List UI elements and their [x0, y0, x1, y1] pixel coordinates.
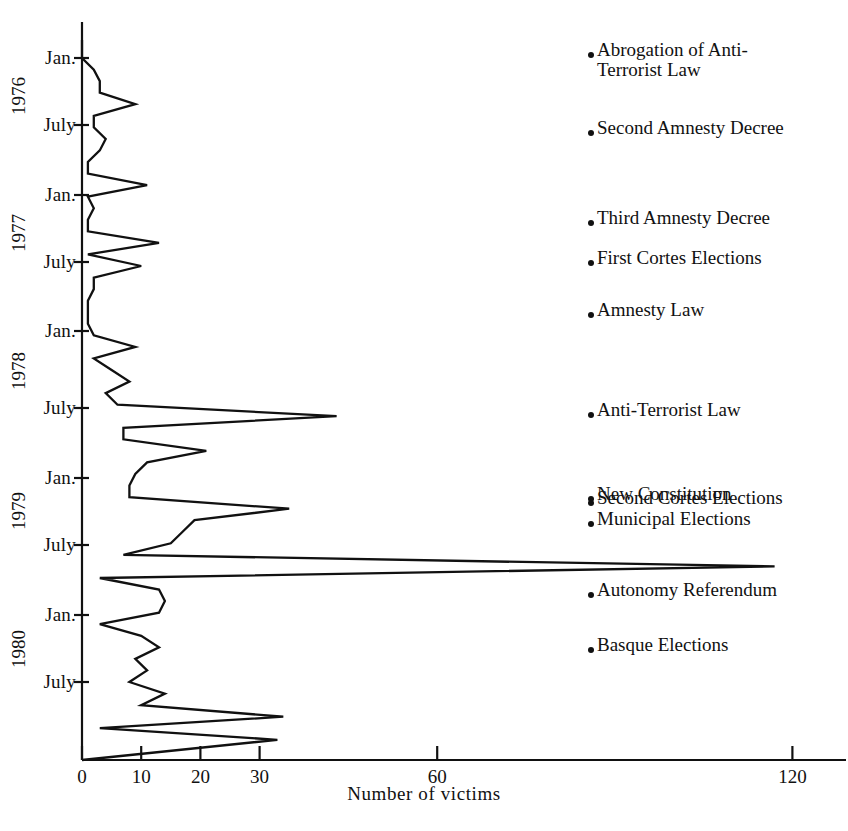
year-label: 1976 [0, 85, 28, 107]
event-annotation-second-cortes-elections: Second Cortes Elections [588, 488, 783, 508]
event-bullet-icon [588, 592, 594, 598]
y-tick-label: July [44, 671, 76, 693]
event-bullet-icon [588, 312, 594, 318]
event-label: Municipal Elections [597, 509, 751, 529]
event-annotation-municipal-elections: Municipal Elections [588, 509, 751, 529]
event-label: Basque Elections [597, 635, 728, 655]
event-label: First Cortes Elections [597, 248, 762, 268]
event-annotation-first-cortes-elections: First Cortes Elections [588, 248, 762, 268]
year-label: 1980 [0, 638, 28, 660]
year-label: 1978 [0, 360, 28, 382]
event-annotation-second-amnesty-decree: Second Amnesty Decree [588, 118, 784, 138]
event-bullet-icon [588, 52, 594, 58]
event-label: Amnesty Law [597, 300, 704, 320]
event-annotation-third-amnesty-decree: Third Amnesty Decree [588, 208, 770, 228]
event-bullet-icon [588, 220, 594, 226]
event-annotation-amnesty-law: Amnesty Law [588, 300, 704, 320]
y-tick-label: Jan. [45, 604, 76, 626]
y-tick-label: Jan. [45, 47, 76, 69]
event-annotation-basque-elections: Basque Elections [588, 635, 728, 655]
event-bullet-icon [588, 500, 594, 506]
event-bullet-icon [588, 412, 594, 418]
event-annotation-anti-terrorist-law: Anti-Terrorist Law [588, 400, 741, 420]
y-tick-label: July [44, 534, 76, 556]
event-label: Third Amnesty Decree [597, 208, 770, 228]
y-tick-label: July [44, 397, 76, 419]
y-axis-month-labels: Jan. July Jan. July Jan. July Jan. July … [0, 0, 76, 831]
y-tick-label: Jan. [45, 320, 76, 342]
victims-timeline-chart: Jan. July Jan. July Jan. July Jan. July … [0, 0, 848, 831]
y-tick-label: July [44, 251, 76, 273]
year-label: 1979 [0, 500, 28, 522]
event-bullet-icon [588, 260, 594, 266]
event-bullet-icon [588, 521, 594, 527]
event-label: Second Cortes Elections [597, 488, 783, 508]
event-label: Second Amnesty Decree [597, 118, 784, 138]
event-annotation-autonomy-referendum: Autonomy Referendum [588, 580, 777, 600]
event-bullet-icon [588, 647, 594, 653]
y-tick-label: Jan. [45, 467, 76, 489]
event-label: Autonomy Referendum [597, 580, 777, 600]
y-tick-label: July [44, 114, 76, 136]
event-annotation-abrogation-anti-terrorist-law: Abrogation of Anti- Terrorist Law [588, 40, 748, 80]
y-tick-label: Jan. [45, 184, 76, 206]
event-bullet-icon [588, 130, 594, 136]
event-label: Anti-Terrorist Law [597, 400, 741, 420]
event-label: Abrogation of Anti- Terrorist Law [597, 40, 748, 80]
year-label: 1977 [0, 222, 28, 244]
x-axis-title: Number of victims [0, 783, 848, 805]
